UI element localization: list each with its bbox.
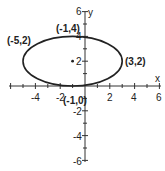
y-tick-label: -4 (73, 131, 82, 142)
center-point (71, 60, 74, 63)
point-label-right: (3,2) (125, 56, 146, 67)
y-tick-label: 2 (76, 56, 82, 67)
point-label-left: (-5,2) (7, 35, 31, 46)
x-tick-label: 2 (107, 92, 113, 103)
y-tick-label: -2 (73, 106, 82, 117)
y-tick-label: -6 (73, 156, 82, 167)
y-tick-label: 6 (76, 6, 82, 17)
x-tick-label: -4 (31, 92, 40, 103)
x-axis-label: x (155, 73, 160, 84)
point-label-top: (-1,4) (56, 23, 80, 34)
y-axis-label: y (88, 7, 93, 18)
point-label-bottom: (-1,0) (63, 95, 87, 106)
x-tick-label: 4 (131, 92, 137, 103)
ellipse-graph: x y -4 -2 2 4 6 6 4 2 -2 -4 -6 (-5,2) (-… (0, 0, 165, 171)
x-tick-label: 6 (156, 92, 162, 103)
